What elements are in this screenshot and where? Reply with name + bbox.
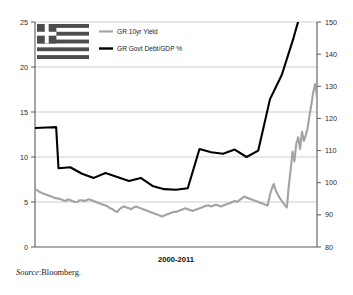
right-axis-ticks bbox=[317, 22, 321, 247]
left-axis-ticks bbox=[31, 22, 35, 247]
right-tick-label-90: 90 bbox=[325, 210, 333, 219]
right-tick-label-80: 80 bbox=[325, 243, 333, 252]
greek-flag-icon bbox=[37, 24, 89, 59]
right-tick-label-110: 110 bbox=[325, 146, 336, 155]
legend-label-govt-debt-gdp: GR Govt Debt/GDP % bbox=[117, 45, 182, 52]
right-tick-label-120: 120 bbox=[325, 114, 337, 123]
legend-label-10yr-yield: GR 10yr Yield bbox=[117, 28, 158, 36]
right-tick-label-150: 150 bbox=[325, 18, 337, 27]
source-word: Source bbox=[16, 268, 39, 277]
chart-svg: 25 20 15 10 5 0 150 140 130 120 110 100 … bbox=[0, 0, 353, 295]
left-tick-label-0: 0 bbox=[24, 243, 28, 252]
left-tick-label-15: 15 bbox=[20, 108, 28, 117]
right-tick-label-100: 100 bbox=[325, 178, 337, 187]
right-tick-label-130: 130 bbox=[325, 82, 337, 91]
left-tick-label-10: 10 bbox=[20, 153, 28, 162]
source-value: Bloomberg. bbox=[41, 268, 81, 277]
chart-figure: 25 20 15 10 5 0 150 140 130 120 110 100 … bbox=[0, 0, 353, 295]
left-tick-label-5: 5 bbox=[24, 198, 28, 207]
left-tick-label-25: 25 bbox=[20, 18, 28, 27]
source-note: Source:Bloomberg. bbox=[16, 268, 81, 277]
left-tick-label-20: 20 bbox=[20, 63, 28, 72]
x-axis-title: 2000-2011 bbox=[158, 255, 195, 264]
right-tick-label-140: 140 bbox=[325, 50, 337, 59]
